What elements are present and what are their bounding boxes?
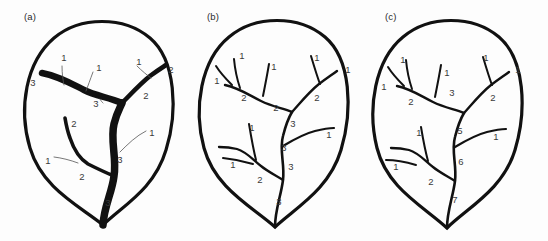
vein-order-label: 1	[515, 65, 520, 75]
vein-c-order1-twig-1	[406, 60, 412, 89]
vein-order-label: 2	[408, 97, 413, 107]
vein-order-label: 3	[276, 197, 281, 207]
panel-c: (c) 111112325116127	[365, 0, 548, 241]
panel-b-caption: (b)	[207, 11, 219, 22]
vein-order-label: 1	[326, 130, 331, 140]
vein-order-label: 1	[400, 55, 405, 65]
leaf-outline-b	[199, 21, 348, 228]
vein-c-order1-twig-5	[421, 127, 428, 161]
panel-b-drawing	[183, 0, 365, 241]
vein-order-label: 2	[428, 177, 433, 187]
vein-order-label: 3	[281, 143, 286, 153]
vein-order-label: 2	[273, 103, 278, 113]
vein-order-label: 6	[458, 157, 463, 167]
vein-a-order1-hair-3	[137, 66, 151, 78]
vein-order-label: 1	[230, 160, 235, 170]
vein-order-label: 2	[241, 93, 246, 103]
vein-order-label: 1	[444, 68, 449, 78]
vein-order-label: 1	[483, 53, 488, 63]
leaf-outline-c	[373, 21, 522, 229]
vein-order-label: 1	[214, 76, 219, 86]
vein-order-label: 2	[314, 93, 319, 103]
vein-order-label: 3	[290, 119, 295, 129]
vein-b-order2-upper-left	[225, 85, 292, 112]
panel-a-caption: (a)	[24, 11, 36, 22]
vein-order-label: 1	[96, 63, 101, 73]
vein-order-label: 1	[493, 132, 498, 142]
vein-a-order1-hair-5	[54, 157, 78, 163]
vein-order-label: 1	[136, 57, 141, 67]
panel-a-drawing	[0, 0, 183, 241]
vein-order-label: 3	[93, 99, 98, 109]
vein-order-label: 5	[457, 126, 462, 136]
vein-c-order2-lower-left	[391, 148, 455, 181]
vein-c-order1-twig-3	[435, 65, 441, 97]
vein-a-order1-hair-2	[86, 72, 93, 91]
vein-order-label: 1	[416, 128, 421, 138]
vein-order-label: 1	[345, 65, 350, 75]
vein-c-order1-twig-6	[386, 160, 416, 165]
vein-b-order1-twig-1	[234, 59, 240, 88]
vein-order-label: 3	[117, 155, 122, 165]
vein-order-label: 1	[61, 53, 66, 63]
vein-order-label: 2	[71, 119, 76, 129]
vein-order-label: 2	[168, 65, 173, 75]
vein-b-order1-twig-3	[263, 64, 269, 96]
leaf-outline-a	[25, 22, 173, 226]
vein-order-label: 2	[257, 175, 262, 185]
vein-a-order3-left	[42, 73, 122, 103]
vein-order-label: 2	[490, 93, 495, 103]
vein-order-label: 1	[249, 123, 254, 133]
vein-order-label: 3	[288, 162, 293, 172]
vein-c-order1-twig-2	[388, 67, 404, 86]
vein-order-label: 2	[79, 172, 84, 182]
panel-c-caption: (c)	[385, 11, 397, 22]
panel-b: (b) 1111122231131323	[183, 0, 365, 241]
vein-a-order1-hair-4	[120, 131, 146, 152]
vein-order-label: 1	[149, 128, 154, 138]
vein-order-label: 1	[239, 51, 244, 61]
vein-order-label: 1	[393, 162, 398, 172]
vein-order-label: 3	[449, 88, 454, 98]
vein-order-label: 1	[314, 53, 319, 63]
panel-a: (a) 3111223211323	[0, 0, 183, 241]
vein-c-order2-upper-right	[464, 72, 509, 113]
vein-order-label: 7	[452, 195, 457, 205]
vein-order-label: 2	[143, 91, 148, 101]
vein-order-label: 3	[30, 78, 35, 88]
vein-b-order1-twig-6	[223, 158, 253, 164]
vein-order-label: 1	[271, 62, 276, 72]
vein-order-label: 1	[381, 82, 386, 92]
figure-container: (a) 3111223211323 (b) 1111122231131	[0, 0, 548, 241]
vein-order-label: 3	[105, 198, 110, 208]
vein-order-label: 1	[45, 156, 50, 166]
